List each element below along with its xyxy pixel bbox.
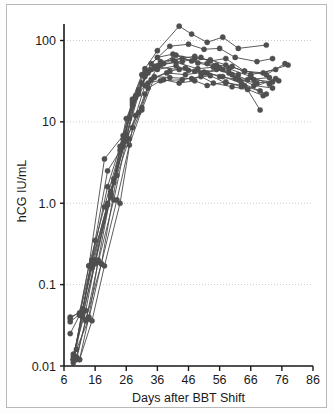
data-point (136, 110, 141, 115)
x-axis-title: Days after BBT Shift (132, 391, 246, 405)
y-tick-label-1.0: 1.0 (39, 197, 56, 211)
data-point (102, 263, 107, 268)
data-point (117, 144, 122, 149)
data-point (270, 86, 275, 91)
data-point (183, 65, 188, 70)
data-point (261, 93, 266, 98)
data-point (257, 88, 262, 93)
data-point (211, 80, 216, 85)
data-point (105, 202, 110, 207)
data-point (254, 59, 259, 64)
data-point (201, 47, 206, 52)
data-point (77, 357, 82, 362)
data-point (173, 53, 178, 58)
data-point (105, 168, 110, 173)
data-point (264, 42, 269, 47)
data-point (217, 46, 222, 51)
y-axis-title: hCG IU/mL (15, 160, 29, 223)
data-point (130, 101, 135, 106)
data-point (223, 56, 228, 61)
data-point (223, 62, 228, 67)
data-point (111, 180, 116, 185)
data-point (102, 156, 107, 161)
data-point (93, 238, 98, 243)
data-point (236, 46, 241, 51)
data-point (217, 74, 222, 79)
data-point (80, 311, 85, 316)
y-tick-label-10: 10 (42, 115, 56, 129)
data-point (149, 67, 154, 72)
data-point (245, 87, 250, 92)
data-point (229, 72, 234, 77)
data-point (217, 65, 222, 70)
data-point (233, 55, 238, 60)
data-point (183, 72, 188, 77)
x-tick-label-56: 56 (213, 373, 227, 387)
data-point (105, 184, 110, 189)
data-point (251, 83, 256, 88)
series-lines-group (70, 26, 288, 362)
x-tick-label-76: 76 (275, 373, 289, 387)
data-point (242, 69, 247, 74)
data-point (124, 116, 129, 121)
data-point (136, 87, 141, 92)
data-point (236, 72, 241, 77)
data-point (180, 56, 185, 61)
data-point (89, 318, 94, 323)
data-point (68, 331, 73, 336)
x-tick-label-46: 46 (182, 373, 196, 387)
chart-container: 0.010.11.01010061626364656667686 hCG IU/… (0, 0, 334, 414)
data-point (133, 93, 138, 98)
data-point (273, 76, 278, 81)
data-point (189, 31, 194, 36)
x-tick-label-86: 86 (306, 373, 320, 387)
data-point (86, 263, 91, 268)
data-point (180, 77, 185, 82)
data-point (167, 44, 172, 49)
data-point (167, 75, 172, 80)
data-point (93, 261, 98, 266)
data-point (273, 67, 278, 72)
data-point (173, 63, 178, 68)
data-point (192, 78, 197, 83)
data-point (68, 316, 73, 321)
data-point (167, 69, 172, 74)
data-point (155, 63, 160, 68)
x-tick-label-6: 6 (61, 373, 68, 387)
data-point (239, 84, 244, 89)
series-markers-group (68, 24, 291, 366)
data-point (145, 86, 150, 91)
data-point (117, 201, 122, 206)
data-point (152, 75, 157, 80)
data-point (155, 48, 160, 53)
data-point (264, 72, 269, 77)
x-tick-label-36: 36 (150, 373, 164, 387)
data-point (198, 55, 203, 60)
data-point (208, 57, 213, 62)
data-point (74, 347, 79, 352)
data-point (145, 80, 150, 85)
data-point (257, 107, 262, 112)
series-line-subject-13 (70, 54, 260, 319)
data-point (186, 42, 191, 47)
data-point (205, 40, 210, 45)
x-tick-label-16: 16 (88, 373, 102, 387)
data-point (229, 84, 234, 89)
data-point (282, 61, 287, 66)
data-point (205, 83, 210, 88)
data-point (142, 69, 147, 74)
data-point (195, 60, 200, 65)
data-point (124, 135, 129, 140)
x-tick-label-26: 26 (119, 373, 133, 387)
data-point (248, 74, 253, 79)
series-line-subject-8 (73, 76, 266, 360)
data-point (192, 56, 197, 61)
data-point (220, 35, 225, 40)
tick-labels-group: 0.010.11.01010061626364656667686 (32, 34, 320, 387)
data-point (71, 354, 76, 359)
y-tick-label-100: 100 (35, 34, 56, 48)
data-point (223, 79, 228, 84)
data-point (142, 91, 147, 96)
data-point (208, 73, 213, 78)
hcg-vs-days-line-chart: 0.010.11.01010061626364656667686 hCG IU/… (0, 0, 334, 414)
